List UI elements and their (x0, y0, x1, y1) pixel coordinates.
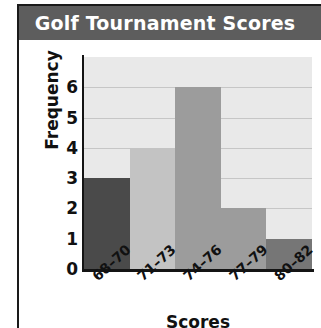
y-tick-label: 2 (56, 200, 78, 217)
plot-area (84, 57, 312, 269)
x-axis-ticks: 68–7071–7374–7677–7980–82 (84, 272, 312, 312)
y-axis-label: Frequency (42, 20, 62, 180)
y-tick-label: 0 (56, 261, 78, 278)
chart-figure: Golf Tournament Scores 0123456 Frequency… (0, 0, 321, 328)
y-axis-line (82, 55, 84, 271)
bar-series (84, 57, 312, 269)
x-axis-label: Scores (84, 312, 312, 328)
y-tick-label: 1 (56, 230, 78, 247)
